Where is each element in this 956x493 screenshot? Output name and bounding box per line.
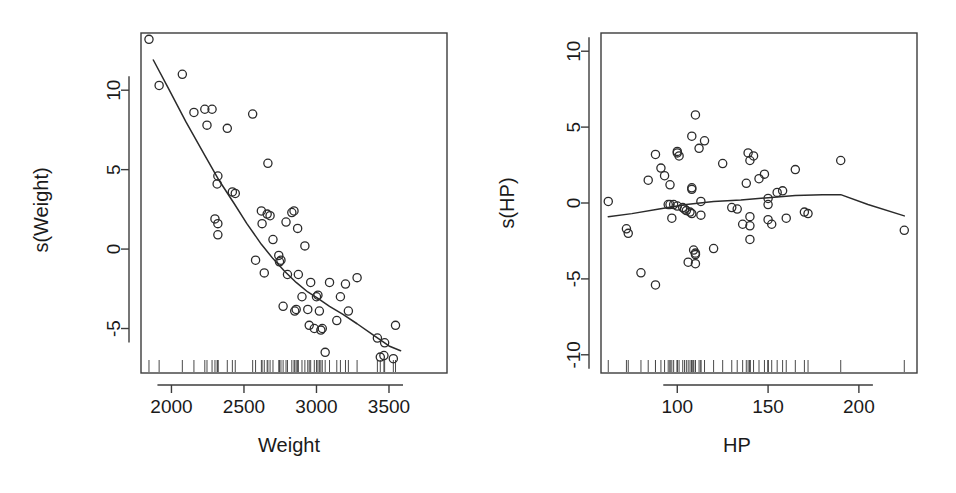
data-point: [223, 124, 231, 132]
data-point: [668, 214, 676, 222]
data-point: [719, 159, 727, 167]
data-point: [651, 281, 659, 289]
data-point: [214, 231, 222, 239]
data-point: [264, 159, 272, 167]
y-axis-title-hp: s(HP): [496, 177, 518, 228]
data-point: [657, 164, 665, 172]
figure-canvas: 20002500300035001050-5 Weight s(Weight) …: [0, 0, 956, 493]
x-tick-label: 100: [661, 396, 693, 417]
data-point: [294, 224, 302, 232]
x-tick-label: 150: [752, 396, 784, 417]
y-tick-label: 0: [563, 198, 584, 209]
hp-plot-content: 1001502001050-5-10: [563, 33, 917, 417]
y-tick-label: 5: [103, 164, 124, 175]
y-tick-label: -10: [563, 341, 584, 368]
data-point: [251, 256, 259, 264]
data-point: [344, 307, 352, 315]
data-point: [660, 172, 668, 180]
data-point: [666, 181, 674, 189]
data-point: [697, 197, 705, 205]
data-point: [304, 305, 312, 313]
data-point: [728, 203, 736, 211]
data-point: [333, 316, 341, 324]
data-point: [637, 269, 645, 277]
data-point: [336, 293, 344, 301]
y-tick-label: -5: [103, 320, 124, 337]
data-point: [290, 207, 298, 215]
data-point: [837, 156, 845, 164]
y-tick-label: 10: [563, 41, 584, 62]
y-axis-title-weight: s(Weight): [30, 167, 52, 252]
data-point: [341, 280, 349, 288]
x-axis-title-weight: Weight: [258, 434, 320, 456]
y-tick-label: 5: [563, 122, 584, 133]
hp-plot-svg: 1001502001050-5-10 HP s(HP): [478, 0, 956, 493]
data-point: [178, 70, 186, 78]
smooth-curve: [608, 195, 904, 217]
data-point: [697, 211, 705, 219]
data-point: [710, 244, 718, 252]
data-point: [695, 144, 703, 152]
data-point: [691, 111, 699, 119]
data-point: [325, 278, 333, 286]
data-point: [258, 220, 266, 228]
plot-frame: [141, 33, 447, 373]
data-point: [764, 200, 772, 208]
data-point: [298, 293, 306, 301]
data-point: [900, 226, 908, 234]
data-point: [301, 242, 309, 250]
x-tick-label: 2500: [223, 396, 265, 417]
x-tick-label: 3000: [295, 396, 337, 417]
y-tick-label: 10: [103, 80, 124, 101]
data-point: [145, 35, 153, 43]
x-tick-label: 3500: [368, 396, 410, 417]
data-point: [190, 108, 198, 116]
data-point: [782, 214, 790, 222]
data-point: [733, 205, 741, 213]
data-point: [644, 176, 652, 184]
plot-panel-hp: 1001502001050-5-10 HP s(HP): [478, 0, 956, 493]
data-point: [651, 150, 659, 158]
smooth-curve: [153, 60, 400, 351]
data-point: [391, 321, 399, 329]
data-point: [604, 197, 612, 205]
plot-frame: [601, 33, 917, 373]
data-point: [700, 137, 708, 145]
data-point: [315, 307, 323, 315]
data-point: [688, 132, 696, 140]
data-point: [791, 166, 799, 174]
data-point: [746, 235, 754, 243]
data-point: [760, 170, 768, 178]
data-point: [282, 218, 290, 226]
weight-plot-content: 20002500300035001050-5: [103, 33, 447, 417]
x-tick-label: 2000: [150, 396, 192, 417]
data-point: [746, 213, 754, 221]
data-point: [755, 175, 763, 183]
data-point: [203, 121, 211, 129]
data-point: [213, 180, 221, 188]
data-point: [742, 179, 750, 187]
data-point: [269, 235, 277, 243]
data-point: [155, 81, 163, 89]
weight-plot-svg: 20002500300035001050-5 Weight s(Weight): [0, 0, 478, 493]
data-point: [266, 212, 274, 220]
data-point: [307, 278, 315, 286]
data-point: [779, 187, 787, 195]
data-point: [231, 189, 239, 197]
plot-panel-weight: 20002500300035001050-5 Weight s(Weight): [0, 0, 478, 493]
data-point: [279, 302, 287, 310]
data-point: [321, 348, 329, 356]
data-point: [294, 270, 302, 278]
data-point: [773, 188, 781, 196]
data-point: [249, 110, 257, 118]
data-point: [260, 269, 268, 277]
y-tick-label: -5: [563, 270, 584, 287]
y-tick-label: 0: [103, 244, 124, 255]
x-axis-title-hp: HP: [723, 434, 751, 456]
x-tick-label: 200: [843, 396, 875, 417]
data-point: [353, 274, 361, 282]
